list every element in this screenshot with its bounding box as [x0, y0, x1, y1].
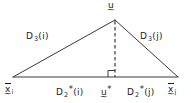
- right-base-segment-label: D2*(j): [127, 85, 155, 98]
- left-side-length-label: D3(i): [26, 32, 49, 43]
- right-side-length-label: D3(j): [140, 32, 163, 43]
- apex-vertex-label: u~: [108, 1, 114, 10]
- geometry-figure: u~ D3(i) D3(j) D2*(i) D2*(j) u~* x~i x~j: [0, 0, 191, 103]
- left-base-argument: (i): [73, 87, 83, 97]
- right-side-argument: (j): [152, 31, 162, 41]
- perpendicular-foot-label: u~*: [101, 85, 112, 97]
- left-triangle-side: [13, 20, 115, 77]
- left-base-vertex-label: x~i: [5, 85, 13, 96]
- under-tilde-accent-icon: ~: [107, 6, 115, 14]
- right-triangle-side: [115, 20, 178, 77]
- over-bar-accent-icon: [5, 83, 12, 84]
- under-tilde-accent-icon: ~: [100, 93, 108, 101]
- right-angle-marker-icon: [108, 71, 115, 78]
- triangle-diagram-canvas: [0, 0, 191, 103]
- right-base-vertex-label: x~j: [168, 85, 176, 96]
- over-bar-accent-icon: [168, 83, 175, 84]
- left-base-segment-label: D2*(i): [56, 85, 84, 98]
- right-base-argument: (j): [144, 87, 154, 97]
- left-side-argument: (i): [38, 31, 48, 41]
- under-tilde-accent-icon: ~: [4, 90, 12, 98]
- under-tilde-accent-icon: ~: [167, 90, 175, 98]
